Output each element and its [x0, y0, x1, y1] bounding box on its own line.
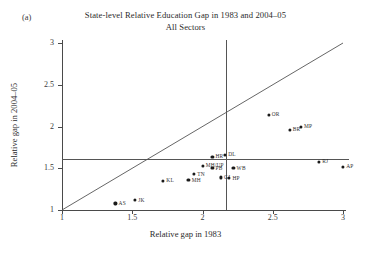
scatter-point: [211, 167, 214, 170]
x-tick-label: 3: [341, 213, 345, 222]
y-tick-label: 1: [32, 205, 54, 214]
scatter-point: [201, 164, 204, 167]
x-axis-title: Relative gap in 1983: [0, 229, 371, 239]
y-tick-label: 3: [32, 38, 54, 47]
scatter-point-label: RJ: [322, 158, 328, 164]
y-tick-mark: [58, 85, 62, 86]
scatter-point-label: TN: [197, 171, 205, 177]
y-tick-label: 1.5: [32, 163, 54, 172]
scatter-point-label: DL: [228, 151, 236, 157]
y-tick-mark: [58, 43, 62, 44]
y-tick-label: 2.5: [32, 80, 54, 89]
scatter-point-label: HR: [216, 153, 224, 159]
scatter-point: [192, 173, 195, 176]
horizontal-mean-line: [62, 159, 349, 160]
scatter-point-label: OR: [272, 111, 280, 117]
scatter-point: [267, 113, 270, 116]
scatter-point: [162, 179, 165, 182]
scatter-point-label: HP: [232, 175, 239, 181]
scatter-point: [318, 160, 321, 163]
chart-figure: (a) State-level Relative Education Gap i…: [0, 0, 371, 253]
x-tick-label: 1: [60, 213, 64, 222]
scatter-point-label: MH: [192, 177, 201, 183]
scatter-point-label: KL: [166, 177, 174, 183]
scatter-point-label: MP: [304, 123, 312, 129]
x-tick-label: 2.5: [268, 213, 278, 222]
y-axis-title: Relative gap in 2004–05: [9, 45, 19, 205]
scatter-point: [299, 125, 302, 128]
scatter-point: [133, 198, 136, 201]
scatter-point: [341, 165, 344, 168]
scatter-point: [187, 178, 190, 181]
vertical-mean-line: [226, 40, 227, 210]
scatter-point-label: AS: [119, 200, 126, 206]
scatter-point-label: JK: [138, 197, 144, 203]
y-tick-mark: [58, 168, 62, 169]
y-axis-line: [62, 40, 63, 212]
x-tick-label: 1.5: [127, 213, 137, 222]
y-tick-label: 2: [32, 122, 54, 131]
scatter-point: [219, 176, 222, 179]
chart-title-line1: State-level Relative Education Gap in 19…: [85, 10, 286, 20]
chart-title: State-level Relative Education Gap in 19…: [0, 10, 371, 33]
scatter-point-label: PB: [216, 165, 223, 171]
reference-lines-layer: [0, 0, 371, 253]
scatter-point: [288, 128, 291, 131]
scatter-point-label: WB: [237, 165, 246, 171]
scatter-point: [211, 155, 214, 158]
chart-subtitle: All Sectors: [0, 22, 371, 34]
x-tick-label: 2: [201, 213, 205, 222]
scatter-point-label: AP: [346, 163, 353, 169]
y-tick-mark: [58, 127, 62, 128]
scatter-point: [114, 202, 117, 205]
scatter-point: [232, 167, 235, 170]
